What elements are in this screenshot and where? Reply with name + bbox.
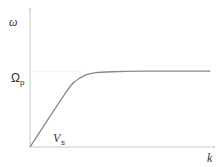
y-axis-end-tick xyxy=(29,8,31,10)
svg-text:p: p xyxy=(20,78,25,87)
dispersion-diagram: ω k Ω p V s xyxy=(0,0,224,167)
y-axis-label: ω xyxy=(9,15,17,29)
svg-text:Ω: Ω xyxy=(11,71,20,85)
omega-p-label: Ω p xyxy=(11,71,25,87)
x-axis-label: k xyxy=(207,151,213,165)
svg-text:s: s xyxy=(61,138,65,147)
vs-label: V s xyxy=(53,131,65,147)
x-axis-end-tick xyxy=(213,146,215,148)
